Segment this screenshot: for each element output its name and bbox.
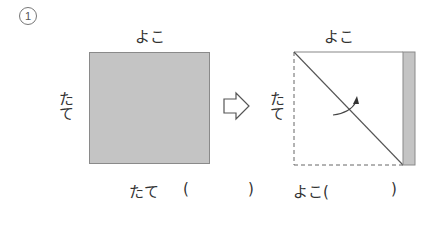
answer-yoko-close-paren: ) [391,180,397,198]
gray-strip [403,52,415,165]
answer-yoko-label: よこ( [293,180,329,201]
answer-tate-label: たて [129,180,159,201]
answer-yoko-blank[interactable] [340,180,390,200]
answer-tate-open-paren: ( [183,180,189,198]
answer-tate-blank[interactable] [192,180,247,200]
right-arrow-icon [224,93,249,119]
answer-tate-close-paren: ) [248,180,254,198]
right-side-label: たて [268,91,283,121]
right-top-label: よこ [324,25,354,46]
